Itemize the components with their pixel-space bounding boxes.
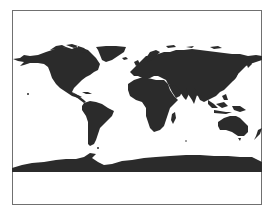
iceland <box>122 57 128 60</box>
australia <box>218 116 248 136</box>
new-guinea <box>232 106 246 112</box>
hawaii <box>27 93 29 95</box>
world-map <box>0 0 273 221</box>
arctic-russia-islands <box>166 45 222 49</box>
new-zealand <box>254 128 262 140</box>
north-america <box>13 47 100 98</box>
madagascar <box>171 112 176 124</box>
kerguelen <box>185 140 187 142</box>
antarctica <box>12 153 262 172</box>
south-georgia <box>97 147 99 149</box>
greenland <box>96 46 126 62</box>
south-america <box>82 101 114 146</box>
tasmania <box>238 138 241 141</box>
